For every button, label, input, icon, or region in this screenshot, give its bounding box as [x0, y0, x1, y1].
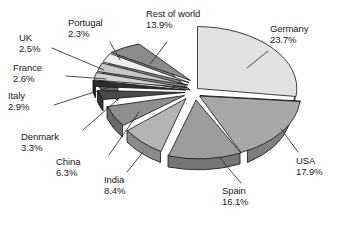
pie-label-france-name: France	[13, 62, 42, 73]
pie-label-usa-percent: 17.9%	[296, 166, 322, 177]
pie-label-germany-name: Germany	[270, 23, 308, 34]
pie-label-rest-of-world: Rest of world 13.9%	[146, 8, 200, 30]
pie-label-spain-name: Spain	[222, 185, 248, 196]
pie-label-china-name: China	[56, 156, 80, 167]
pie-label-rest-of-world-percent: 13.9%	[146, 19, 200, 30]
pie-label-denmark: Denmark 3.3%	[21, 131, 59, 153]
pie-label-france-percent: 2.6%	[13, 73, 42, 84]
pie-label-germany: Germany 23.7%	[270, 23, 308, 45]
pie-label-uk-percent: 2.5%	[19, 43, 40, 54]
pie-label-india-percent: 8.4%	[104, 185, 125, 196]
pie-label-china-percent: 6.3%	[56, 167, 80, 178]
pie-label-portugal-name: Portugal	[68, 17, 103, 28]
pie-label-usa-name: USA	[296, 155, 322, 166]
pie-label-uk-name: UK	[19, 32, 40, 43]
pie-label-uk: UK 2.5%	[19, 32, 40, 54]
pie-label-italy-name: Italy	[8, 90, 29, 101]
pie-label-germany-percent: 23.7%	[270, 34, 308, 45]
pie-label-italy-percent: 2.9%	[8, 101, 29, 112]
pie-label-rest-of-world-name: Rest of world	[146, 8, 200, 19]
pie-label-india: India 8.4%	[104, 174, 125, 196]
pie-label-usa: USA 17.9%	[296, 155, 322, 177]
pie-label-italy: Italy 2.9%	[8, 90, 29, 112]
pie-label-india-name: India	[104, 174, 125, 185]
pie-label-portugal: Portugal 2.3%	[68, 17, 103, 39]
pie-chart-figure: Rest of world 13.9% Germany 23.7% Portug…	[0, 0, 350, 226]
pie-label-china: China 6.3%	[56, 156, 80, 178]
leader-line-uk	[52, 48, 104, 70]
leader-line-india	[127, 152, 143, 172]
pie-label-spain-percent: 16.1%	[222, 196, 248, 207]
pie-label-portugal-percent: 2.3%	[68, 28, 103, 39]
pie-label-spain: Spain 16.1%	[222, 185, 248, 207]
pie-label-france: France 2.6%	[13, 62, 42, 84]
pie-label-denmark-percent: 3.3%	[21, 142, 59, 153]
leader-line-usa	[281, 129, 298, 152]
pie-label-denmark-name: Denmark	[21, 131, 59, 142]
